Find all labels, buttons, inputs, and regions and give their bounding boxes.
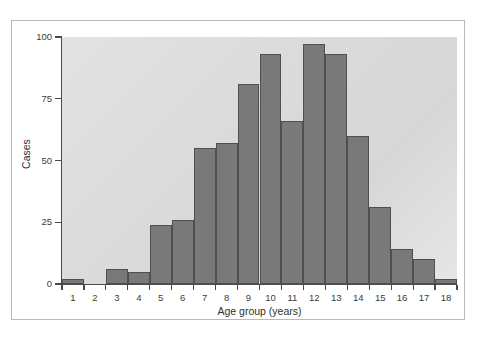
bar-7 [194, 148, 216, 284]
x-tick-8 [237, 285, 238, 290]
y-tick-25 [55, 222, 61, 223]
y-axis-title: Cases [20, 124, 32, 184]
plot-area [62, 37, 457, 284]
x-tick-1 [83, 285, 84, 290]
y-tick-75 [55, 98, 61, 99]
x-tick-10 [281, 285, 282, 290]
x-tick-17 [434, 285, 435, 290]
bar-12 [303, 44, 325, 284]
y-tick-100 [55, 36, 61, 37]
y-tick-50 [55, 160, 61, 161]
x-axis-title: Age group (years) [62, 305, 457, 317]
bar-14 [347, 136, 369, 284]
bar-13 [325, 54, 347, 284]
bar-5 [150, 225, 172, 284]
y-tick-label-100: 100 [6, 31, 52, 42]
x-tick-14 [369, 285, 370, 290]
x-tick-16 [413, 285, 414, 290]
y-axis-line [61, 36, 62, 285]
bar-9 [238, 84, 260, 284]
x-tick-7 [215, 285, 216, 290]
bar-16 [391, 249, 413, 284]
x-tick-15 [391, 285, 392, 290]
bar-11 [281, 121, 303, 284]
bar-10 [260, 54, 282, 284]
bar-15 [369, 207, 391, 284]
x-tick-18 [456, 285, 457, 290]
x-tick-11 [303, 285, 304, 290]
y-tick-label-25: 25 [6, 216, 52, 227]
x-tick-12 [325, 285, 326, 290]
figure-canvas: 0255075100 123456789101112131415161718 C… [0, 0, 478, 340]
y-tick-0 [55, 283, 61, 284]
x-tick-9 [259, 285, 260, 290]
y-tick-label-75: 75 [6, 93, 52, 104]
x-tick-2 [105, 285, 106, 290]
bar-3 [106, 269, 128, 284]
x-tick-13 [347, 285, 348, 290]
bar-4 [128, 272, 150, 284]
x-tick-3 [127, 285, 128, 290]
bar-6 [172, 220, 194, 284]
x-tick-label-18: 18 [431, 292, 461, 303]
y-tick-label-0: 0 [6, 278, 52, 289]
x-tick-4 [149, 285, 150, 290]
bar-8 [216, 143, 238, 284]
bar-17 [413, 259, 435, 284]
x-tick-6 [193, 285, 194, 290]
x-tick-0 [61, 285, 62, 290]
x-tick-5 [171, 285, 172, 290]
